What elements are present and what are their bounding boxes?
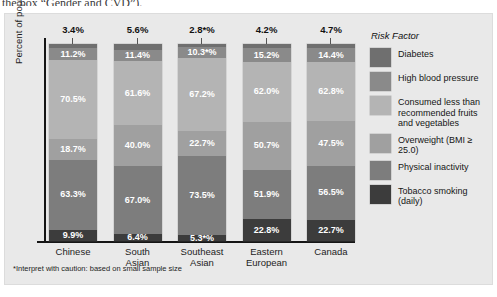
legend-item: Overweight (BMI ≥ 25.0) — [370, 134, 492, 156]
x-axis-tick-label: Canada — [307, 246, 355, 268]
bar-top-value-label: 5.6% — [114, 24, 162, 35]
bar-top-value-label: 3.4% — [49, 24, 97, 35]
legend-item: High blood pressure — [370, 72, 492, 91]
bar-segment: 62.0% — [243, 62, 291, 121]
stacked-bar: 10.3*%67.2%22.7%73.5%5.3*% — [178, 44, 226, 241]
bar-segment: 63.3% — [49, 160, 97, 230]
x-axis-tick-label: SoutheastAsian — [178, 246, 226, 268]
legend-label: Overweight (BMI ≥ 25.0) — [398, 134, 492, 156]
label-leader-line — [330, 38, 331, 44]
stacked-bar: 15.2%62.0%50.7%51.9%22.8% — [243, 44, 291, 241]
bar-segment: 14.4% — [307, 48, 355, 62]
legend-item: Consumed less than recommended fruits an… — [370, 96, 492, 129]
bar-segment: 67.2% — [178, 58, 226, 131]
bar-segment: 51.9% — [243, 170, 291, 219]
x-axis-tick-label: EasternEuropean — [243, 246, 291, 268]
bar-segment: 11.2% — [49, 48, 97, 60]
legend-label: Tobacco smoking (daily) — [398, 185, 492, 207]
legend-item: Diabetes — [370, 48, 492, 67]
bar-segment: 18.7% — [49, 139, 97, 160]
legend-title: Risk Factor — [371, 30, 492, 41]
bar-top-value-label: 2.8*% — [178, 24, 226, 35]
legend-label: Physical inactivity — [398, 161, 469, 173]
label-leader-line — [201, 38, 202, 44]
legend-swatch — [370, 48, 391, 67]
bar-segment: 62.8% — [307, 62, 355, 121]
bar-group: 3.4%11.2%70.5%18.7%63.3%9.9%5.6%11.4%61.… — [49, 36, 355, 241]
bar-segment: 70.5% — [49, 60, 97, 138]
bar-segment: 6.4% — [114, 234, 162, 241]
stacked-bar: 11.2%70.5%18.7%63.3%9.9% — [49, 44, 97, 241]
legend-item: Tobacco smoking (daily) — [370, 185, 492, 207]
stacked-bar: 11.4%61.6%40.0%67.0%6.4% — [114, 44, 162, 241]
legend-label: High blood pressure — [398, 72, 479, 84]
legend-swatch — [370, 72, 391, 91]
footnote: *Interpret with caution: based on small … — [13, 264, 182, 273]
bar-segment: 11.4% — [114, 50, 162, 62]
figure-page: the box “Gender and CVD”). Percent of po… — [0, 0, 497, 297]
bar-segment: 50.7% — [243, 122, 291, 170]
bar-segment: 15.2% — [243, 48, 291, 62]
y-axis-line — [44, 38, 46, 242]
legend-item: Physical inactivity — [370, 161, 492, 180]
y-axis-label: Percent of population with risk factor — [13, 0, 27, 64]
bar-segment: 22.7% — [178, 131, 226, 156]
legend-swatch — [370, 161, 391, 180]
legend-label: Consumed less than recommended fruits an… — [398, 96, 492, 129]
legend-swatch — [370, 185, 391, 204]
x-axis-line — [37, 241, 355, 243]
bar-segment: 40.0% — [114, 125, 162, 166]
bar-segment: 61.6% — [114, 61, 162, 124]
bar-column: 3.4%11.2%70.5%18.7%63.3%9.9% — [49, 36, 97, 241]
plot-area: Percent of population with risk factor 3… — [29, 28, 359, 254]
bar-segment: 47.5% — [307, 121, 355, 166]
legend-items: DiabetesHigh blood pressureConsumed less… — [370, 48, 492, 207]
legend-label: Diabetes — [398, 48, 434, 60]
bar-segment: 56.5% — [307, 166, 355, 219]
legend: Risk Factor DiabetesHigh blood pressureC… — [370, 30, 492, 212]
bar-segment: 67.0% — [114, 166, 162, 235]
bar-column: 4.2%15.2%62.0%50.7%51.9%22.8% — [243, 36, 291, 241]
label-leader-line — [72, 38, 73, 44]
stacked-bar: 14.4%62.8%47.5%56.5%22.7% — [307, 44, 355, 241]
bar-segment: 22.8% — [243, 219, 291, 241]
bar-column: 2.8*%10.3*%67.2%22.7%73.5%5.3*% — [178, 36, 226, 241]
bar-segment: 10.3*% — [178, 47, 226, 58]
bar-segment: 9.9% — [49, 230, 97, 241]
bar-segment: 5.3*% — [178, 235, 226, 241]
bar-column: 5.6%11.4%61.6%40.0%67.0%6.4% — [114, 36, 162, 241]
legend-swatch — [370, 134, 391, 153]
bar-segment: 73.5% — [178, 156, 226, 236]
bar-top-value-label: 4.2% — [243, 24, 291, 35]
label-leader-line — [266, 38, 267, 44]
legend-swatch — [370, 96, 391, 115]
bar-top-value-label: 4.7% — [307, 24, 355, 35]
bar-column: 4.7%14.4%62.8%47.5%56.5%22.7% — [307, 36, 355, 241]
figure-panel: Percent of population with risk factor 3… — [4, 13, 493, 285]
label-leader-line — [137, 38, 138, 44]
bar-segment: 22.7% — [307, 220, 355, 241]
